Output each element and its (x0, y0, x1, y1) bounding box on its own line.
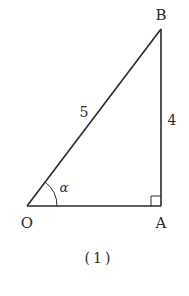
angle-arc-alpha (45, 182, 57, 206)
angle-label-alpha: α (60, 180, 69, 195)
edge-label-AB: 4 (168, 112, 177, 128)
edge-label-OB: 5 (80, 104, 89, 120)
right-angle-marker (151, 196, 161, 206)
triangle-diagram: B O A 5 4 α (1) (0, 0, 189, 296)
vertex-label-A: A (155, 214, 167, 232)
figure-caption: (1) (85, 250, 114, 266)
vertex-label-O: O (21, 214, 33, 232)
vertex-label-B: B (155, 6, 166, 24)
edge-OB (27, 29, 161, 206)
